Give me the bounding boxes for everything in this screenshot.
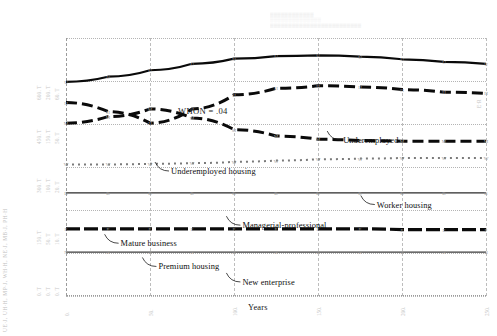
label-leader-line — [226, 216, 240, 225]
y-tick-label-4-2: 0. T — [54, 287, 60, 296]
series-symbol: N — [358, 250, 362, 255]
series-symbol: U — [148, 68, 152, 73]
y-tick-label-4-0: 0. T — [36, 287, 42, 296]
series-symbol: W — [484, 156, 489, 161]
series-symbol: W — [358, 157, 363, 162]
series-symbol: U — [358, 55, 362, 60]
x-tick-label-1: 50. — [148, 310, 154, 316]
x-tick-label-3: 150. — [316, 307, 322, 316]
x-tick-label-2: 100. — [232, 307, 238, 316]
curve-label-managerial-professional: Managerial-professional — [242, 221, 326, 230]
curve-label-new-enterprise: New enterprise — [242, 278, 294, 287]
series-symbol: W — [64, 162, 69, 167]
series-symbol: U — [274, 54, 278, 59]
scan-header-line-3: ▒▒▒▒▒▒▒▒▒▒▒▒▒▒▒▒▒▒▒▒▒▒▒▒▒ — [270, 23, 485, 28]
series-symbol: M — [484, 139, 489, 144]
y-tick-label-2-1: 100. T — [45, 178, 51, 193]
series-symbol: N — [190, 250, 194, 255]
series-symbol: M — [274, 134, 279, 139]
x-axis-label: Years — [248, 303, 268, 312]
series-symbol: W — [106, 162, 111, 167]
series-symbol: P — [233, 227, 236, 232]
series-symbol: H — [484, 91, 488, 96]
y-tick-label-2-2: 20. T — [54, 181, 60, 193]
scan-header-band: ▒▒▒▒▒▒▒▒▒▒▒▒ ░░░░░░░░░░░░░░ ▒▒▒▒▒▒▒▒▒▒▒▒… — [270, 12, 485, 28]
series-symbol: H — [358, 85, 362, 90]
series-symbol: N — [106, 250, 110, 255]
series-symbol: H — [400, 88, 404, 93]
series-symbol: M — [106, 115, 111, 120]
series-symbol: N — [442, 250, 446, 255]
y-tick-label-3-2: 10. T — [54, 233, 60, 245]
series-symbol: H — [316, 84, 320, 89]
series-symbol: H — [148, 121, 152, 126]
label-leader-line — [226, 273, 240, 282]
series-symbol: M — [400, 139, 405, 144]
series-symbol: W — [442, 156, 447, 161]
series-symbol: U — [232, 57, 236, 62]
series-symbol: M — [316, 137, 321, 142]
series-symbol: H — [442, 90, 446, 95]
x-tick-label-4: 200. — [400, 307, 406, 316]
series-symbol: N — [484, 250, 488, 255]
series-underemployed — [66, 55, 486, 81]
series-symbol: W — [190, 161, 195, 166]
series-symbol: N — [316, 250, 320, 255]
y-tick-label-1-0: 450. T — [36, 129, 42, 144]
curve-label-mature-business: Mature business — [121, 239, 177, 248]
y-tick-label-3-1: 50. T — [45, 233, 51, 245]
series-symbol: U — [316, 53, 320, 58]
series-symbol: P — [359, 227, 362, 232]
curve-label-worker-housing: Worker housing — [377, 201, 432, 210]
series-symbol: W — [148, 162, 153, 167]
series-symbol: P — [485, 228, 488, 233]
series-symbol: U — [64, 80, 68, 85]
grid-row-6 — [66, 296, 486, 297]
series-symbol: N — [64, 250, 68, 255]
series-symbol: M — [64, 121, 69, 126]
series-symbol: U — [484, 62, 488, 67]
grid-column-5 — [486, 38, 487, 296]
label-leader-line — [105, 234, 119, 243]
series-symbol: U — [442, 60, 446, 65]
series-symbol: M — [232, 128, 237, 133]
curve-label-premium-housing: Premium housing — [158, 262, 219, 271]
y-tick-label-2-0: 300. T — [36, 178, 42, 193]
series-symbol: U — [400, 57, 404, 62]
plot-area: UUUUUUUUUUUHHHHHHHHHHHMMMMMMMMMMMWWWWWWW… — [66, 38, 486, 296]
y-tick-label-0-2: 60. T — [54, 88, 60, 100]
whon-annotation: WHON = .04 — [178, 106, 228, 116]
y-tick-label-0-1: 200. T — [45, 85, 51, 100]
series-symbol: M — [190, 116, 195, 121]
y-axis-caption: UE∙J, UH∙H, MP∙J, WH∙H, NE∙J, MB∙J, PH∙H — [2, 208, 8, 332]
series-symbol: H — [64, 101, 68, 106]
series-symbol: N — [400, 250, 404, 255]
series-symbol: M — [442, 139, 447, 144]
series-symbol: P — [149, 227, 152, 232]
series-symbol: U — [190, 62, 194, 67]
label-leader-line — [142, 257, 156, 266]
curve-label-underemployed: Underemployed — [343, 136, 398, 145]
series-symbol: P — [443, 228, 446, 233]
series-symbol: P — [401, 228, 404, 233]
series-symbol: P — [65, 227, 68, 232]
series-symbol: W — [274, 159, 279, 164]
series-symbol: N — [148, 250, 152, 255]
y-tick-label-1-2: 50. T — [54, 132, 60, 144]
y-tick-label-1-1: 150. T — [45, 129, 51, 144]
series-symbol: N — [232, 250, 236, 255]
series-symbol: H — [232, 93, 236, 98]
series-symbol: N — [274, 250, 278, 255]
x-tick-label-5: 250. — [484, 307, 490, 316]
series-underemployed-housing — [66, 86, 486, 123]
series-symbol: W — [400, 156, 405, 161]
series-symbol: B — [484, 191, 488, 196]
figure-root: ▒▒▒▒▒▒▒▒▒▒▒▒ ░░░░░░░░░░░░░░ ▒▒▒▒▒▒▒▒▒▒▒▒… — [0, 0, 497, 336]
series-symbol: P — [191, 227, 194, 232]
x-tick-label-0: 0. — [64, 312, 70, 316]
series-curves: UUUUUUUUUUUHHHHHHHHHHHMMMMMMMMMMMWWWWWWW… — [66, 38, 486, 296]
label-leader-line — [361, 196, 375, 205]
y-tick-label-0-0: 600. T — [36, 85, 42, 100]
series-symbol: W — [232, 160, 237, 165]
series-symbol: W — [316, 157, 321, 162]
